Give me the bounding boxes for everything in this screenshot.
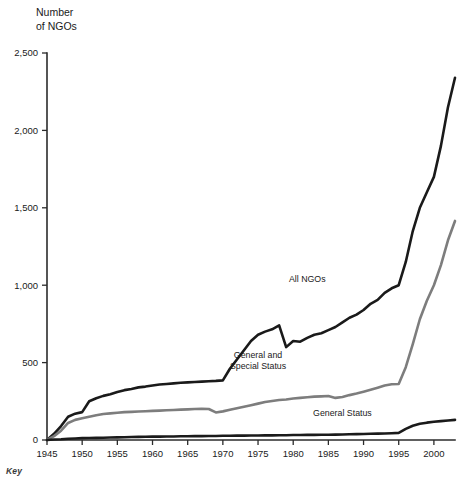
y-axis-tick-label: 0 — [33, 434, 38, 445]
y-axis-tick-label: 2,000 — [14, 125, 38, 136]
x-axis-tick-label: 1950 — [72, 448, 93, 459]
y-axis-title-line1: Number — [36, 6, 74, 18]
y-axis-ticks: 05001,0001,5002,0002,500 — [14, 47, 47, 445]
y-axis-tick-label: 2,500 — [14, 47, 38, 58]
x-axis-tick-label: 1945 — [36, 448, 57, 459]
x-axis-tick-label: 1955 — [107, 448, 128, 459]
x-axis-tick-label: 1960 — [142, 448, 163, 459]
y-axis-tick-label: 500 — [22, 357, 38, 368]
key-label: Key — [6, 466, 22, 476]
x-axis-tick-label: 1965 — [177, 448, 198, 459]
series-label-general-and-special-status-line2: Special Status — [230, 361, 287, 371]
x-axis-tick-label: 1985 — [318, 448, 339, 459]
ngo-line-chart: Number of NGOs 05001,0001,5002,0002,500 … — [0, 0, 464, 483]
series-line-general-and-special-status — [47, 221, 455, 440]
x-axis-tick-label: 1995 — [388, 448, 409, 459]
y-axis-title-line2: of NGOs — [36, 20, 77, 32]
chart-canvas: Number of NGOs 05001,0001,5002,0002,500 … — [0, 0, 464, 483]
series-line-all-ngos — [47, 78, 455, 440]
series-label-all-ngos: All NGOs — [289, 274, 326, 284]
y-axis-title: Number of NGOs — [36, 6, 77, 32]
x-axis-tick-label: 1980 — [283, 448, 304, 459]
series-lines — [47, 78, 455, 440]
series-label-general-and-special-status-line1: General and — [234, 350, 283, 360]
x-axis-ticks: 1945195019551960196519701975198019851990… — [36, 440, 444, 459]
x-axis-tick-label: 1970 — [212, 448, 233, 459]
y-axis-tick-label: 1,000 — [14, 280, 38, 291]
y-axis-tick-label: 1,500 — [14, 202, 38, 213]
series-label-general-status: General Status — [313, 408, 372, 418]
x-axis-tick-label: 1975 — [247, 448, 268, 459]
series-line-general-status — [47, 420, 455, 440]
x-axis-tick-label: 1990 — [353, 448, 374, 459]
x-axis-tick-label: 2000 — [423, 448, 444, 459]
series-annotations: All NGOsGeneral andSpecial StatusGeneral… — [230, 274, 372, 418]
